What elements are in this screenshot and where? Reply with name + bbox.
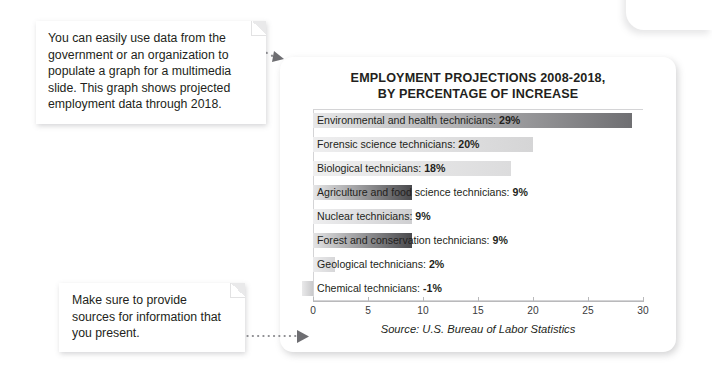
bar-label: Agriculture and food science technicians… — [313, 185, 528, 200]
x-axis-tick — [313, 297, 314, 302]
callout-note-top: You can easily use data from the governm… — [36, 21, 266, 124]
bar-row: Agriculture and food science technicians… — [313, 185, 643, 209]
callout-note-bottom-text: Make sure to provide sources for informa… — [72, 292, 233, 342]
bar-row: Biological technicians: 18% — [313, 161, 643, 185]
x-axis-tick — [533, 297, 534, 302]
bar-row: Forensic science technicians: 20% — [313, 137, 643, 161]
bar-label: Forensic science technicians: 20% — [313, 137, 480, 152]
bar-row: Environmental and health technicians: 29… — [313, 113, 643, 137]
callout-note-top-text: You can easily use data from the governm… — [48, 30, 254, 113]
x-axis-tick-label: 15 — [472, 305, 483, 316]
bar-label: Nuclear technicians: 9% — [313, 209, 431, 224]
x-axis-tick — [478, 297, 479, 302]
x-axis-tick — [423, 297, 424, 302]
bar-row: Geological technicians: 2% — [313, 257, 643, 281]
bar-label: Environmental and health technicians: 29… — [313, 113, 520, 128]
chart-title: EMPLOYMENT PROJECTIONS 2008-2018,BY PERC… — [280, 57, 676, 102]
x-axis-tick-label: 20 — [527, 305, 538, 316]
bar-row: Nuclear technicians: 9% — [313, 209, 643, 233]
page-fold-corner-icon — [230, 283, 245, 298]
x-axis-tick-label: 0 — [310, 305, 316, 316]
x-axis-tick-label: 25 — [582, 305, 593, 316]
corner-decoration — [626, 0, 712, 30]
x-axis-tick-label: 30 — [637, 305, 648, 316]
plot-wrapper: Environmental and health technicians: 29… — [313, 109, 643, 301]
x-axis-tick-label: 10 — [417, 305, 428, 316]
x-axis-tick — [643, 297, 644, 302]
bar-row: Forest and conservation technicians: 9% — [313, 233, 643, 257]
bar-label: Chemical technicians: -1% — [313, 281, 442, 296]
bar-label: Biological technicians: 18% — [313, 161, 445, 176]
bar-label: Forest and conservation technicians: 9% — [313, 233, 508, 248]
page-fold-corner-icon — [251, 21, 266, 36]
callout-note-bottom: Make sure to provide sources for informa… — [59, 283, 245, 352]
chart-source-note: Source: U.S. Bureau of Labor Statistics — [280, 323, 676, 335]
x-axis-tick — [368, 297, 369, 302]
chart-card: EMPLOYMENT PROJECTIONS 2008-2018,BY PERC… — [280, 57, 676, 352]
bar-label: Geological technicians: 2% — [313, 257, 444, 272]
x-axis-tick-label: 5 — [365, 305, 371, 316]
x-axis-tick — [588, 297, 589, 302]
bar — [302, 281, 313, 296]
